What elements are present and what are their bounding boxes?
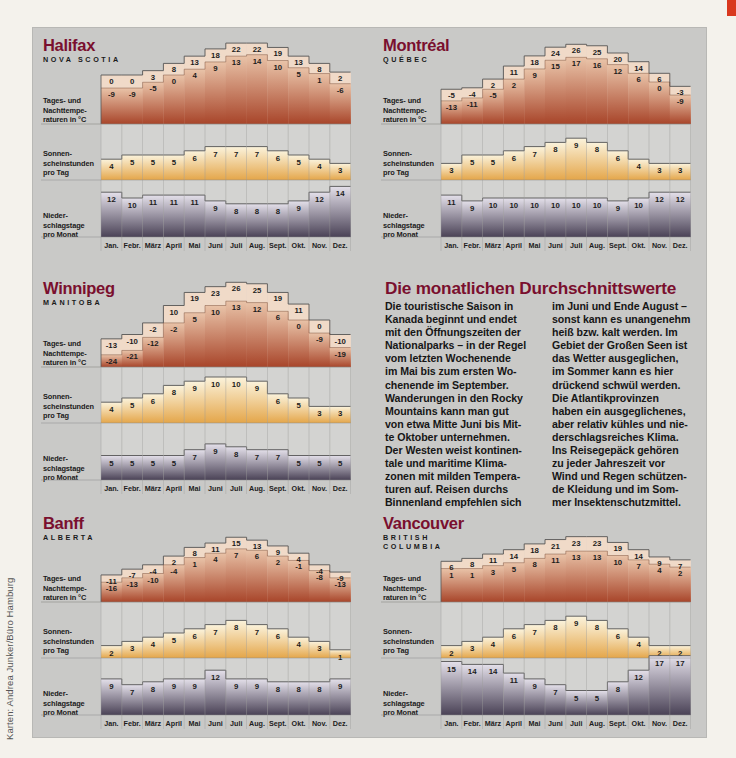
svg-text:8: 8 bbox=[172, 388, 177, 397]
svg-text:11: 11 bbox=[551, 556, 560, 565]
svg-text:-13: -13 bbox=[335, 580, 347, 589]
article-column-1: Die touristische Saison in Kanada beginn… bbox=[385, 300, 543, 510]
city-block-vancouver: Vancouver BRITISH COLUMBIA Tages- und Na… bbox=[373, 506, 703, 738]
svg-text:3: 3 bbox=[470, 644, 475, 653]
svg-text:13: 13 bbox=[253, 542, 262, 551]
svg-text:Juni: Juni bbox=[548, 241, 563, 250]
svg-text:Sept.: Sept. bbox=[609, 719, 627, 728]
svg-text:4: 4 bbox=[636, 162, 641, 171]
svg-text:14: 14 bbox=[253, 57, 262, 66]
svg-text:9: 9 bbox=[234, 682, 239, 691]
svg-text:Mai: Mai bbox=[189, 241, 201, 250]
svg-text:Nov.: Nov. bbox=[652, 719, 667, 728]
svg-text:15: 15 bbox=[551, 62, 560, 71]
city-block-montreal: Montréal QUÉBEC Tages- und Nachttempe- r… bbox=[373, 28, 703, 260]
svg-text:10: 10 bbox=[634, 201, 643, 210]
svg-text:Febr.: Febr. bbox=[124, 484, 141, 493]
svg-text:12: 12 bbox=[253, 305, 262, 314]
svg-text:11: 11 bbox=[149, 198, 158, 207]
svg-text:20: 20 bbox=[613, 55, 622, 64]
svg-text:6: 6 bbox=[657, 75, 662, 84]
svg-text:13: 13 bbox=[190, 58, 199, 67]
svg-text:2: 2 bbox=[491, 81, 496, 90]
svg-text:8: 8 bbox=[317, 685, 322, 694]
svg-text:6: 6 bbox=[276, 632, 281, 641]
svg-text:Juli: Juli bbox=[230, 719, 242, 728]
svg-text:Okt.: Okt. bbox=[292, 241, 306, 250]
svg-text:-4: -4 bbox=[150, 567, 158, 576]
svg-text:Mai: Mai bbox=[189, 484, 201, 493]
svg-text:10: 10 bbox=[169, 308, 178, 317]
svg-text:14: 14 bbox=[468, 667, 477, 676]
svg-text:1: 1 bbox=[470, 571, 475, 580]
svg-text:8: 8 bbox=[276, 685, 281, 694]
svg-text:11: 11 bbox=[447, 198, 456, 207]
article-title: Die monatlichen Durchschnittswerte bbox=[385, 278, 710, 298]
svg-text:Juli: Juli bbox=[570, 719, 582, 728]
svg-text:8: 8 bbox=[470, 560, 475, 569]
svg-text:5: 5 bbox=[470, 158, 475, 167]
svg-text:8: 8 bbox=[595, 623, 600, 632]
svg-text:5: 5 bbox=[151, 158, 156, 167]
svg-text:6: 6 bbox=[512, 632, 517, 641]
svg-text:8: 8 bbox=[255, 207, 260, 216]
svg-text:18: 18 bbox=[211, 51, 220, 60]
svg-text:10: 10 bbox=[572, 201, 581, 210]
svg-text:17: 17 bbox=[572, 59, 581, 68]
svg-text:-13: -13 bbox=[446, 103, 458, 112]
svg-text:5: 5 bbox=[317, 459, 322, 468]
svg-text:3: 3 bbox=[678, 166, 683, 175]
article-column-2: im Juni und Ende August – sonst kann es … bbox=[552, 300, 710, 510]
svg-text:4: 4 bbox=[491, 640, 496, 649]
svg-text:9: 9 bbox=[255, 682, 260, 691]
svg-text:0: 0 bbox=[172, 77, 177, 86]
svg-text:9: 9 bbox=[109, 682, 114, 691]
svg-text:10: 10 bbox=[128, 201, 137, 210]
svg-text:März: März bbox=[485, 719, 502, 728]
svg-text:4: 4 bbox=[109, 162, 114, 171]
svg-text:0: 0 bbox=[317, 322, 322, 331]
city-block-winnipeg: Winnipeg MANITOBA Tages- und Nachttempe-… bbox=[33, 271, 363, 503]
climate-panel: Halifax NOVA SCOTIA Tages- und Nachttemp… bbox=[32, 27, 707, 738]
svg-text:12: 12 bbox=[613, 67, 622, 76]
svg-text:6: 6 bbox=[276, 154, 281, 163]
svg-text:6: 6 bbox=[255, 552, 260, 561]
climate-chart-montreal: -5-13-4-112-5112189241526172516201214660… bbox=[373, 28, 703, 260]
svg-text:19: 19 bbox=[613, 544, 622, 553]
svg-text:26: 26 bbox=[232, 284, 241, 293]
svg-text:14: 14 bbox=[489, 667, 498, 676]
svg-text:11: 11 bbox=[510, 68, 519, 77]
svg-text:3: 3 bbox=[317, 409, 322, 418]
svg-text:6: 6 bbox=[192, 154, 197, 163]
svg-text:Dez.: Dez. bbox=[333, 241, 348, 250]
svg-text:3: 3 bbox=[657, 166, 662, 175]
svg-text:3: 3 bbox=[338, 409, 343, 418]
svg-text:5: 5 bbox=[574, 694, 579, 703]
svg-text:18: 18 bbox=[530, 58, 539, 67]
svg-text:Nov.: Nov. bbox=[652, 241, 667, 250]
svg-text:Sept.: Sept. bbox=[269, 719, 287, 728]
corner-mark bbox=[727, 0, 736, 16]
svg-text:Aug.: Aug. bbox=[589, 719, 605, 728]
svg-text:9: 9 bbox=[213, 204, 218, 213]
svg-text:Jan.: Jan. bbox=[104, 241, 118, 250]
svg-text:Mai: Mai bbox=[529, 719, 541, 728]
svg-text:13: 13 bbox=[294, 58, 303, 67]
svg-text:-12: -12 bbox=[147, 339, 159, 348]
svg-text:7: 7 bbox=[255, 453, 259, 462]
svg-text:6: 6 bbox=[616, 632, 621, 641]
svg-text:2: 2 bbox=[338, 74, 343, 83]
svg-text:Sept.: Sept. bbox=[609, 241, 627, 250]
svg-text:4: 4 bbox=[296, 640, 301, 649]
svg-text:7: 7 bbox=[234, 551, 238, 560]
svg-text:18: 18 bbox=[530, 546, 539, 555]
svg-text:8: 8 bbox=[234, 450, 239, 459]
svg-text:Juni: Juni bbox=[548, 719, 563, 728]
svg-text:3: 3 bbox=[151, 73, 156, 82]
climate-chart-halifax: 0-90-93-580134189221322141910135812-6455… bbox=[33, 28, 363, 260]
svg-text:7: 7 bbox=[276, 453, 280, 462]
svg-text:9: 9 bbox=[470, 204, 475, 213]
svg-text:9: 9 bbox=[532, 682, 537, 691]
svg-text:5: 5 bbox=[296, 158, 301, 167]
svg-text:10: 10 bbox=[489, 201, 498, 210]
